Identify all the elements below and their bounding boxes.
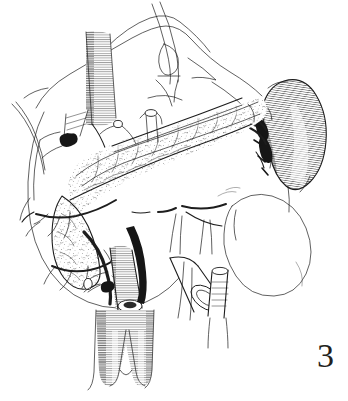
page-background (0, 0, 348, 401)
figure-container: 3 (0, 0, 348, 401)
anatomical-illustration (0, 0, 348, 401)
figure-number: 3 (317, 339, 334, 373)
